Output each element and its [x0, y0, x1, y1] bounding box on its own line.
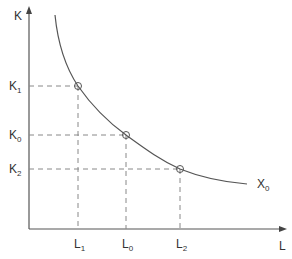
diagram-canvas	[0, 0, 292, 259]
curve-label: X0	[257, 178, 269, 193]
k2-label: K2	[9, 163, 21, 178]
k0-label: K0	[9, 129, 21, 144]
l0-label: L0	[122, 238, 133, 253]
x-axis-label: L	[279, 240, 286, 252]
y-axis-arrow-icon	[26, 6, 32, 14]
k1-label: K1	[9, 80, 21, 95]
guide-lines	[29, 86, 180, 229]
l2-label: L2	[176, 238, 187, 253]
isoquant-diagram: K L K1 K0 K2 L1 L0 L2 X0	[0, 0, 292, 259]
l1-label: L1	[74, 238, 85, 253]
x-axis-arrow-icon	[279, 226, 287, 232]
isoquant-curve	[55, 15, 247, 184]
y-axis-label: K	[14, 10, 22, 22]
